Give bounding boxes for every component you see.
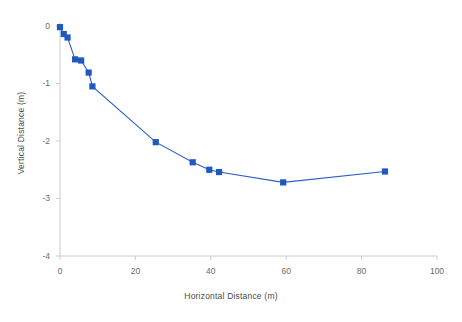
data-line xyxy=(60,27,385,182)
x-tick-label: 40 xyxy=(191,266,231,276)
data-point-marker xyxy=(89,83,95,89)
data-markers xyxy=(57,24,388,185)
data-point-marker xyxy=(57,24,63,30)
data-point-marker xyxy=(78,57,84,63)
x-tick-label: 80 xyxy=(342,266,382,276)
data-point-marker xyxy=(382,168,388,174)
axis-lines xyxy=(60,22,437,256)
y-axis-title-wrapper: Vertical Distance (m) xyxy=(8,0,26,270)
x-axis-title: Horizontal Distance (m) xyxy=(0,291,462,301)
data-point-marker xyxy=(72,56,78,62)
x-tick-label: 20 xyxy=(115,266,155,276)
data-point-marker xyxy=(280,179,286,185)
data-point-marker xyxy=(206,167,212,173)
data-point-marker xyxy=(86,69,92,75)
data-point-marker xyxy=(190,159,196,165)
y-axis-title: Vertical Distance (m) xyxy=(16,68,26,198)
data-point-marker xyxy=(64,34,70,40)
tick-marks xyxy=(56,26,437,260)
chart-container: 020406080100 0-1-2-3-4 Horizontal Distan… xyxy=(0,0,462,322)
x-tick-label: 60 xyxy=(266,266,306,276)
x-tick-label: 100 xyxy=(417,266,457,276)
x-tick-label: 0 xyxy=(40,266,80,276)
data-point-marker xyxy=(153,139,159,145)
data-point-marker xyxy=(216,169,222,175)
